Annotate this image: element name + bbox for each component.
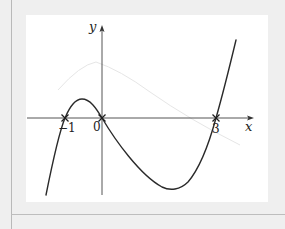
- tick-label-3: 3: [212, 123, 220, 135]
- x-axis-label: x: [245, 120, 252, 133]
- tick-label-neg1: −1: [58, 122, 76, 134]
- y-axis-label: y: [89, 20, 96, 33]
- cubic-graph: [0, 0, 285, 229]
- tick-label-0: 0: [93, 121, 101, 133]
